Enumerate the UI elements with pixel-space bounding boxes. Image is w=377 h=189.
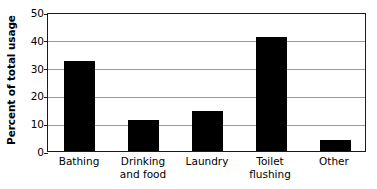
- x-axis-tick-label-line: flushing: [238, 168, 302, 181]
- x-axis-tick-label: Toiletflushing: [238, 155, 302, 180]
- plot-area: [47, 13, 366, 152]
- x-axis-tick-label: Other: [302, 155, 366, 168]
- y-axis-tick-label: 30: [22, 64, 44, 74]
- y-axis-tick-mark: [44, 69, 48, 70]
- y-axis-tick-mark: [44, 97, 48, 98]
- y-axis-tick-mark: [44, 153, 48, 154]
- gridline: [48, 41, 365, 42]
- x-axis-tick-label: Drinkingand food: [111, 155, 175, 180]
- bar: [256, 37, 287, 151]
- y-axis-tick-mark: [44, 125, 48, 126]
- y-axis-title: Percent of total usage: [0, 0, 22, 160]
- y-axis-tick-label: 20: [22, 91, 44, 101]
- x-axis-tick-label-line: Bathing: [47, 155, 111, 168]
- x-axis-tick-label: Bathing: [47, 155, 111, 168]
- y-axis-tick-labels: 01020304050: [22, 13, 44, 152]
- x-axis-tick-label-line: Toilet: [238, 155, 302, 168]
- x-axis-tick-label-line: Other: [302, 155, 366, 168]
- y-axis-tick-mark: [44, 41, 48, 42]
- y-axis-tick-label: 10: [22, 119, 44, 129]
- x-axis-tick-labels: BathingDrinkingand foodLaundryToiletflus…: [47, 155, 366, 189]
- bar: [320, 140, 351, 151]
- y-axis-tick-label: 40: [22, 36, 44, 46]
- gridline: [48, 97, 365, 98]
- bar-chart: Percent of total usage 01020304050 Bathi…: [0, 0, 377, 189]
- y-axis-tick-label: 50: [22, 8, 44, 18]
- x-axis-tick-label-line: Drinking: [111, 155, 175, 168]
- bar: [64, 61, 95, 151]
- y-axis-title-text: Percent of total usage: [5, 15, 17, 145]
- x-axis-tick-label-line: and food: [111, 168, 175, 181]
- bar: [192, 111, 223, 151]
- bar: [128, 120, 159, 151]
- y-axis-tick-label: 0: [22, 147, 44, 157]
- gridline: [48, 69, 365, 70]
- y-axis-tick-mark: [44, 14, 48, 15]
- x-axis-tick-label-line: Laundry: [175, 155, 239, 168]
- x-axis-tick-label: Laundry: [175, 155, 239, 168]
